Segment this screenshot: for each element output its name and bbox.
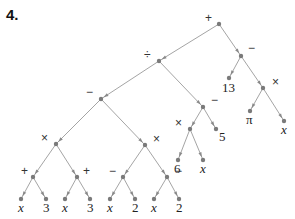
node-label: × (153, 132, 160, 146)
node-label: 13 (222, 80, 235, 95)
tree-node-sub4 (165, 175, 169, 179)
node-label: + (83, 164, 90, 178)
arrowhead-icon (230, 70, 234, 75)
node-label: − (175, 164, 182, 178)
arrowhead-icon (66, 191, 70, 196)
arrowhead-icon (278, 113, 282, 118)
arrowhead-icon (192, 121, 196, 126)
node-label: 3 (87, 200, 94, 215)
expression-tree-figure: 4. +÷−13×πx−−×56x××++−−x3x3x2x2 (0, 0, 295, 219)
node-label: 2 (176, 200, 183, 215)
arrowhead-icon (85, 191, 89, 196)
tree-node-sub_m (201, 105, 205, 109)
node-label: x (61, 200, 68, 215)
tree-node-mul_l (54, 142, 58, 146)
node-label: + (205, 11, 212, 25)
tree-node-div (157, 59, 161, 63)
tree-node-mul_r (261, 86, 265, 90)
node-label: ÷ (144, 48, 151, 62)
node-label: − (248, 41, 255, 55)
node-label: 3 (43, 200, 50, 215)
arrowhead-icon (112, 191, 116, 196)
node-label: + (21, 164, 28, 178)
tree-node-add1 (31, 175, 35, 179)
tree-node-root (217, 22, 221, 26)
tree-node-add2 (75, 175, 79, 179)
arrowhead-icon (125, 170, 129, 175)
tree-node-mul_m (188, 127, 192, 131)
tree-node-sub_l (99, 97, 103, 101)
tree-edge (159, 24, 219, 61)
arrowhead-icon (257, 81, 261, 86)
arrowhead-icon (156, 191, 160, 196)
node-label: x (106, 200, 113, 215)
node-label: 2 (132, 200, 139, 215)
arrowhead-icon (41, 191, 45, 196)
expression-tree: +÷−13×πx−−×56x××++−−x3x3x2x2 (0, 0, 295, 219)
tree-edge (101, 99, 145, 145)
node-label: x (280, 122, 287, 137)
node-label: π (246, 112, 253, 127)
node-label: − (86, 85, 93, 99)
arrowhead-icon (130, 191, 134, 196)
node-label: x (150, 200, 157, 215)
tree-node-n5 (214, 127, 218, 131)
arrowhead-icon (198, 152, 201, 157)
tree-node-sub3 (121, 175, 125, 179)
arrowhead-icon (179, 152, 182, 157)
arrowhead-icon (174, 191, 178, 196)
node-label: 5 (219, 129, 226, 144)
arrowhead-icon (104, 93, 109, 97)
tree-edge (56, 99, 101, 144)
arrowhead-icon (161, 170, 165, 175)
node-label: × (272, 75, 279, 89)
tree-edge (159, 61, 203, 107)
arrowhead-icon (22, 191, 26, 196)
node-label: × (175, 116, 182, 130)
arrowhead-icon (35, 170, 39, 175)
arrowhead-icon (71, 169, 75, 174)
arrowhead-icon (251, 103, 255, 108)
tree-node-mul_c (143, 143, 147, 147)
node-label: − (211, 93, 218, 107)
tree-edge (101, 61, 159, 99)
arrowhead-icon (235, 49, 239, 54)
arrowhead-icon (162, 55, 167, 59)
node-label: x (17, 200, 24, 215)
arrowhead-icon (211, 121, 215, 126)
tree-node-sub_r (239, 54, 243, 58)
node-label: x (199, 161, 206, 176)
node-label: × (41, 131, 48, 145)
node-label: − (109, 164, 116, 178)
